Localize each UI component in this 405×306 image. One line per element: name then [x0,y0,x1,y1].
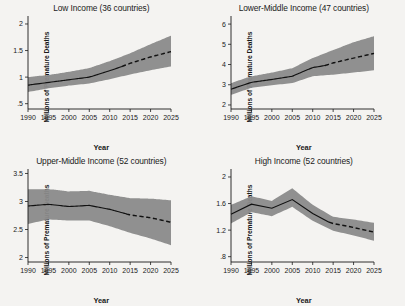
y-tick-label: 2.5 [13,226,23,233]
x-axis-label: Year [203,143,405,152]
x-tick-label: 2025 [163,114,179,121]
x-tick-label: 2005 [81,267,97,274]
plot-svg: .511.5219901995200020052010201520202025 [0,0,202,153]
y-tick-label: 3 [222,81,226,88]
x-tick-label: 2015 [325,114,341,121]
chart-grid: Low Income (36 countries) Millions of Pr… [0,0,405,306]
x-tick-label: 2005 [284,114,300,121]
x-tick-label: 2025 [163,267,179,274]
x-tick-label: 2015 [325,267,341,274]
plot-area: 22.533.519901995200020052010201520202025 [0,153,202,306]
y-tick-label: 6 [222,21,226,28]
x-tick-label: 2020 [143,267,159,274]
plot-svg: 22.533.519901995200020052010201520202025 [0,153,202,306]
y-tick-label: 2 [222,173,226,180]
x-tick-label: 1990 [20,114,36,121]
plot-area: 2345619901995200020052010201520202025 [203,0,405,153]
y-tick-label: 1.2 [216,227,226,234]
x-tick-label: 2025 [366,114,382,121]
plot-area: .511.5219901995200020052010201520202025 [0,0,202,153]
x-tick-label: 2000 [61,114,77,121]
x-tick-label: 2010 [102,267,118,274]
y-tick-label: 4 [222,61,226,68]
x-tick-label: 1990 [223,267,239,274]
y-tick-label: 2 [222,101,226,108]
panel-high-income: High Income (52 countries) Millions of P… [203,153,405,306]
x-tick-label: 1990 [20,267,36,274]
x-axis-label: Year [203,296,405,305]
uncertainty-band [28,36,171,92]
x-tick-label: 2020 [143,114,159,121]
y-tick-label: 1.5 [13,47,23,54]
x-tick-label: 2020 [345,114,361,121]
x-tick-label: 2015 [122,267,138,274]
plot-svg: .81.21.621990199520002005201020152020202… [203,153,405,306]
y-tick-label: 3.5 [13,170,23,177]
uncertainty-band [231,36,374,95]
x-axis-label: Year [0,143,203,152]
y-tick-label: 1.6 [216,200,226,207]
x-tick-label: 2015 [122,114,138,121]
x-tick-label: 1995 [41,114,57,121]
plot-area: .81.21.621990199520002005201020152020202… [203,153,405,306]
x-tick-label: 1995 [243,267,259,274]
x-tick-label: 2000 [264,114,280,121]
x-tick-label: 2000 [61,267,77,274]
y-tick-label: 5 [222,41,226,48]
x-tick-label: 2010 [102,114,118,121]
y-tick-label: 2 [19,20,23,27]
axis-lines [231,169,374,262]
x-tick-label: 1995 [243,114,259,121]
panel-lower-middle-income: Lower-Middle Income (47 countries) Milli… [203,0,405,153]
x-axis-label: Year [0,296,203,305]
x-tick-label: 2010 [304,267,320,274]
y-tick-label: .5 [17,100,23,107]
panel-upper-middle-income: Upper-Middle Income (52 countries) Milli… [0,153,203,306]
uncertainty-band [231,188,374,240]
x-tick-label: 2020 [345,267,361,274]
y-tick-label: 2 [19,254,23,261]
panel-low-income: Low Income (36 countries) Millions of Pr… [0,0,203,153]
x-tick-label: 2005 [81,114,97,121]
x-tick-label: 2010 [304,114,320,121]
x-tick-label: 2025 [366,267,382,274]
x-tick-label: 2005 [284,267,300,274]
y-tick-label: .8 [220,253,226,260]
x-tick-label: 1990 [223,114,239,121]
x-tick-label: 1995 [41,267,57,274]
x-tick-label: 2000 [264,267,280,274]
y-tick-label: 3 [19,198,23,205]
y-tick-label: 1 [19,74,23,81]
plot-svg: 2345619901995200020052010201520202025 [203,0,405,153]
